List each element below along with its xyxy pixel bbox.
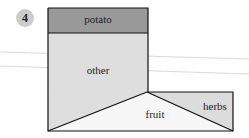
- label-herbs: herbs: [195, 100, 235, 112]
- badge-number: 4: [16, 9, 34, 27]
- label-other: other: [48, 64, 148, 76]
- label-potato: potato: [48, 13, 148, 25]
- label-fruit: fruit: [130, 108, 180, 120]
